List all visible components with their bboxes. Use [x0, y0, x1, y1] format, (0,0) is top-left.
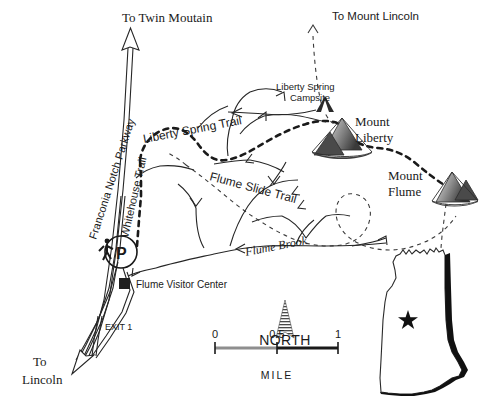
liberty-spring-campsite-label-line1: Liberty Spring	[276, 81, 335, 92]
to-lincoln-label-line1: To	[33, 354, 47, 369]
mount-lincoln-arrowhead	[308, 25, 318, 33]
scale-tick-0-label: 0	[212, 328, 218, 340]
mount-liberty-label-line1: Mount	[355, 114, 390, 129]
campsite-spur-trail	[228, 108, 316, 117]
parking-letter: P	[116, 245, 127, 262]
exit-1-label: EXIT 1	[105, 322, 132, 332]
parkway-south-arrowhead	[72, 350, 94, 374]
new-hampshire-inset-shape	[380, 248, 468, 396]
flume-brook-label: Flume Brook	[243, 233, 309, 259]
parkway-north-arrowhead	[122, 28, 139, 50]
map-canvas: P To Twin Moutain To Mount Lin	[0, 0, 482, 408]
scale-tick-half-label: 0.5	[269, 328, 284, 340]
to-mount-lincoln-label: To Mount Lincoln	[332, 10, 419, 22]
flume-visitor-center-label: Flume Visitor Center	[136, 279, 228, 290]
whitehouse-trail-label: Whitehouse Trail	[118, 156, 148, 239]
liberty-spring-campsite-label-line2: Campsite	[290, 92, 330, 103]
flume-visitor-center-marker	[119, 278, 130, 289]
trail-map: P To Twin Moutain To Mount Lin	[0, 0, 482, 408]
to-lincoln-label-line2: Lincoln	[22, 372, 63, 387]
scale-tick-1-label: 1	[335, 328, 341, 340]
mount-flume-label-line1: Mount	[388, 168, 423, 183]
north-label: NORTH	[259, 332, 311, 348]
mount-flume-label-line2: Flume	[388, 184, 421, 199]
to-twin-mountain-label: To Twin Moutain	[122, 10, 213, 25]
flume-slide-trail-label: Flume Slide Trail	[208, 169, 298, 206]
mount-liberty-label-line2: Liberty	[355, 130, 394, 145]
mount-flume-symbol	[432, 172, 478, 207]
scale-unit-label: MILE	[261, 369, 294, 381]
